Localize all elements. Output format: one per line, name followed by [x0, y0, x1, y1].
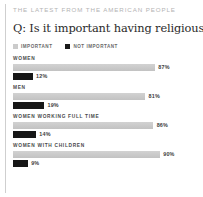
bar-value-important: 90%: [163, 151, 174, 157]
bar-row-important: 90%: [13, 151, 194, 158]
bar-row-not-important: 12%: [13, 73, 194, 80]
left-divider: [5, 4, 6, 193]
group-label: WOMEN: [13, 56, 194, 61]
bar-value-important: 86%: [157, 122, 168, 128]
bar-value-not-important: 19%: [47, 102, 58, 108]
bar-not-important: [13, 102, 44, 109]
kicker-text: THE LATEST FROM THE AMERICAN PEOPLE: [13, 6, 194, 14]
group-label: WOMEN WITH CHILDREN: [13, 143, 194, 148]
bar-value-not-important: 9%: [31, 160, 39, 166]
chart-group: MEN 81% 19%: [13, 85, 194, 109]
legend-label-not-important: NOT IMPORTANT: [73, 44, 117, 49]
bar-row-important: 81%: [13, 93, 194, 100]
legend-swatch-important-icon: [13, 44, 18, 49]
bar-important: [13, 122, 153, 129]
bar-important: [13, 151, 160, 158]
bar-important: [13, 64, 155, 71]
legend-item-not-important: NOT IMPORTANT: [65, 44, 117, 49]
bar-row-important: 87%: [13, 64, 194, 71]
bar-not-important: [13, 160, 28, 167]
bar-value-not-important: 14%: [39, 131, 50, 137]
bar-row-not-important: 9%: [13, 160, 194, 167]
legend-label-important: IMPORTANT: [21, 44, 52, 49]
bar-value-not-important: 12%: [36, 73, 47, 79]
bar-value-important: 87%: [158, 64, 169, 70]
chart-groups: WOMEN 87% 12% MEN 81% 19%: [13, 56, 194, 167]
group-label: MEN: [13, 85, 194, 90]
legend-swatch-not-important-icon: [65, 44, 70, 49]
chart-legend: IMPORTANT NOT IMPORTANT: [13, 44, 194, 49]
bar-value-important: 81%: [149, 93, 160, 99]
bar-row-not-important: 14%: [13, 131, 194, 138]
bar-row-important: 86%: [13, 122, 194, 129]
poll-card: THE LATEST FROM THE AMERICAN PEOPLE Q: I…: [0, 0, 203, 197]
bar-not-important: [13, 131, 36, 138]
legend-item-important: IMPORTANT: [13, 44, 52, 49]
chart-group: WOMEN WITH CHILDREN 90% 9%: [13, 143, 194, 167]
bar-not-important: [13, 73, 33, 80]
bar-row-not-important: 19%: [13, 102, 194, 109]
bar-important: [13, 93, 145, 100]
chart-group: WOMEN 87% 12%: [13, 56, 194, 80]
chart-group: WOMEN WORKING FULL TIME 86% 14%: [13, 114, 194, 138]
group-label: WOMEN WORKING FULL TIME: [13, 114, 194, 119]
poll-question: Q: Is it important having religious fait…: [13, 21, 194, 36]
